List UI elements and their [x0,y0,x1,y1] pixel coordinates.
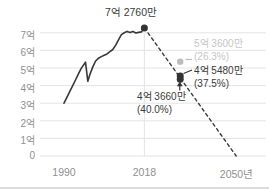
marker-scenario-low [177,76,184,83]
marker-peak [141,24,148,31]
y-tick-6: 6억 [0,44,35,59]
annotation-scenario-high-value: 5억 3600만 [194,37,243,50]
page-divider-line [0,187,269,189]
annotation-scenario-low: 4억 3660만 (40.0%) [137,90,186,116]
annotation-scenario-mid-percent: (37.5%) [194,77,243,90]
annotation-scenario-low-percent: (40.0%) [137,103,186,116]
annotation-scenario-low-value: 4억 3660만 [137,90,186,103]
y-tick-5: 5억 [0,62,35,77]
series-historical [64,28,144,103]
annotation-scenario-mid-value: 4억 5480만 [194,64,243,77]
leader-scenario-mid [184,70,193,74]
annotation-scenario-high: 5억 3600만 (26.3%) [194,37,243,63]
y-tick-1: 1억 [0,132,35,147]
x-tick-2018: 2018 [133,166,156,178]
y-tick-4: 4억 [0,80,35,95]
x-tick-2050: 2050년 [220,166,253,181]
annotation-peak: 7억 2760만 [105,4,157,19]
marker-scenario-high [177,58,183,64]
population-projection-chart: 7억 6억 5억 4억 3억 2억 1억 0 1990 2018 2050년 7… [0,0,269,193]
annotation-scenario-high-percent: (26.3%) [194,50,243,63]
y-tick-3: 3억 [0,97,35,112]
x-tick-1990: 1990 [52,166,75,178]
y-tick-7: 7억 [0,27,35,42]
y-tick-2: 2억 [0,115,35,130]
y-tick-0: 0 [0,150,35,161]
annotation-scenario-mid: 4억 5480만 (37.5%) [194,64,243,90]
chart-canvas [0,0,269,193]
